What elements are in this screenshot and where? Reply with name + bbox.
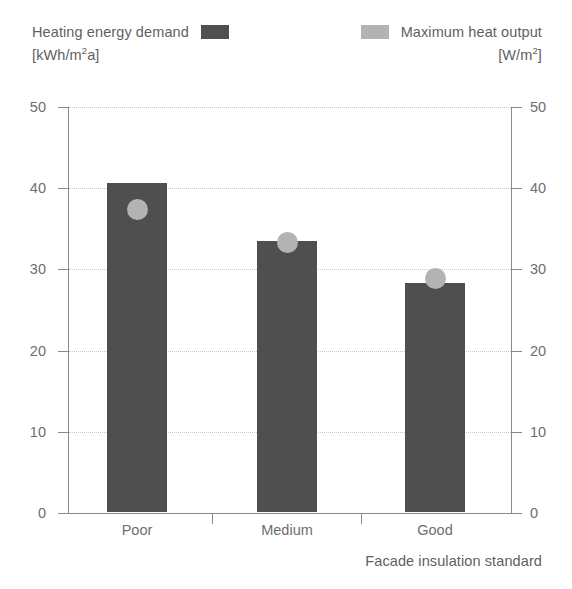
- y-axis-left-label-30: 30: [6, 262, 46, 277]
- x-axis-title: Facade insulation standard: [365, 553, 542, 569]
- y-axis-right-label-20: 20: [530, 344, 570, 359]
- chart-legend: Heating energy demand [kWh/m2a] Maximum …: [0, 0, 572, 90]
- y-axis-left-label-50: 50: [6, 100, 46, 115]
- x-axis-label-good: Good: [375, 522, 495, 538]
- y-axis-left-tick-10: [58, 432, 68, 433]
- y-axis-left-tick-20: [58, 351, 68, 352]
- y-axis-right-line: [511, 107, 512, 514]
- plot-area: PoorMediumGood 0010102020303040405050: [68, 107, 512, 513]
- y-axis-right-label-50: 50: [530, 100, 570, 115]
- legend-label-heating-energy-demand: Heating energy demand: [32, 24, 189, 40]
- legend-units-right-prefix: [W/m: [498, 47, 532, 63]
- y-axis-right-label-40: 40: [530, 181, 570, 196]
- legend-entry-heating-energy-demand: Heating energy demand [kWh/m2a]: [32, 22, 229, 63]
- y-axis-right-tick-0: [512, 513, 522, 514]
- y-axis-right-label-0: 0: [530, 506, 570, 521]
- x-axis-label-poor: Poor: [77, 522, 197, 538]
- y-axis-left-label-0: 0: [6, 506, 46, 521]
- y-axis-right-tick-20: [512, 351, 522, 352]
- y-axis-left-tick-0: [58, 513, 68, 514]
- legend-units-left: [kWh/m2a]: [32, 47, 229, 63]
- legend-units-left-suffix: a]: [87, 47, 99, 63]
- y-axis-left-tick-50: [58, 107, 68, 108]
- x-axis-line: [58, 513, 522, 514]
- marker-poor: [127, 199, 148, 220]
- y-axis-left-label-20: 20: [6, 344, 46, 359]
- legend-row-right: Maximum heat output: [361, 22, 542, 42]
- bar-poor: [107, 183, 167, 512]
- marker-medium: [277, 232, 298, 253]
- y-axis-left-label-40: 40: [6, 181, 46, 196]
- x-axis-separator-tick-2: [361, 514, 362, 524]
- y-axis-right-tick-30: [512, 269, 522, 270]
- gridline-50: [69, 107, 511, 108]
- y-axis-left-tick-30: [58, 269, 68, 270]
- x-axis-label-medium: Medium: [227, 522, 347, 538]
- y-axis-left-tick-40: [58, 188, 68, 189]
- y-axis-right-tick-40: [512, 188, 522, 189]
- legend-row-left: Heating energy demand: [32, 22, 229, 42]
- y-axis-right-label-30: 30: [530, 262, 570, 277]
- y-axis-right-tick-50: [512, 107, 522, 108]
- legend-entry-maximum-heat-output: Maximum heat output [W/m2]: [361, 22, 542, 63]
- light-gray-circle-swatch-icon: [361, 25, 389, 39]
- y-axis-right-label-10: 10: [530, 425, 570, 440]
- chart-figure: Heating energy demand [kWh/m2a] Maximum …: [0, 0, 572, 589]
- y-axis-right-tick-10: [512, 432, 522, 433]
- legend-label-maximum-heat-output: Maximum heat output: [401, 24, 542, 40]
- y-axis-left-label-10: 10: [6, 425, 46, 440]
- marker-good: [425, 268, 446, 289]
- legend-units-right: [W/m2]: [361, 47, 542, 63]
- x-axis-separator-tick-1: [212, 514, 213, 524]
- dark-gray-bar-swatch-icon: [201, 25, 229, 39]
- y-axis-left-line: [68, 107, 69, 514]
- bar-medium: [257, 241, 317, 512]
- legend-units-right-suffix: ]: [538, 47, 542, 63]
- bar-good: [405, 283, 465, 512]
- legend-units-left-prefix: [kWh/m: [32, 47, 82, 63]
